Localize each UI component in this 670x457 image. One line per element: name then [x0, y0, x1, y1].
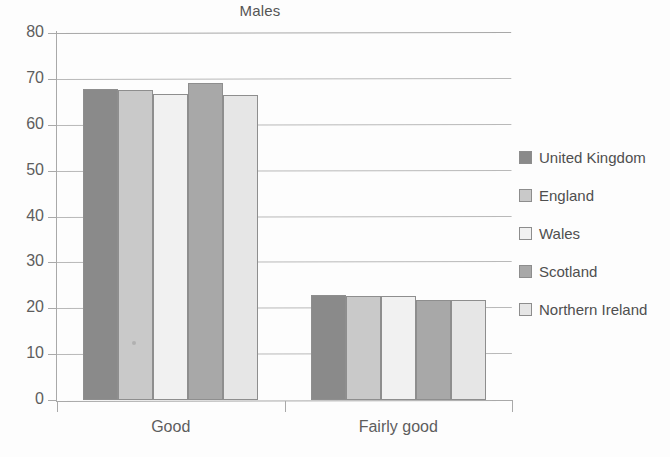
- legend-swatch-icon: [519, 189, 532, 202]
- x-tick-mark-0: [57, 401, 58, 412]
- x-tick-mark-1: [285, 401, 286, 412]
- legend-item-label: Northern Ireland: [539, 302, 647, 317]
- bar-england-fairly-good: [346, 296, 381, 400]
- legend-swatch-icon: [519, 151, 532, 164]
- bar-wales-fairly-good: [381, 296, 416, 400]
- bar-northern-ireland-good: [223, 95, 258, 400]
- legend-item-england[interactable]: England: [519, 176, 667, 214]
- bar-scotland-fairly-good: [416, 300, 451, 400]
- legend-item-united-kingdom[interactable]: United Kingdom: [519, 138, 667, 176]
- legend-item-label: England: [539, 188, 594, 203]
- legend-item-wales[interactable]: Wales: [519, 214, 667, 252]
- legend-item-label: Scotland: [539, 264, 597, 279]
- x-tick-mark-2: [512, 401, 513, 412]
- bar-united-kingdom-fairly-good: [311, 295, 346, 400]
- bar-united-kingdom-good: [83, 89, 118, 400]
- legend-item-northern-ireland[interactable]: Northern Ireland: [519, 290, 667, 328]
- bar-northern-ireland-fairly-good: [451, 300, 486, 400]
- legend-swatch-icon: [519, 227, 532, 240]
- bar-wales-good: [153, 94, 188, 400]
- bar-england-good: [118, 90, 153, 400]
- x-category-label-fairly-good: Fairly good: [318, 418, 478, 436]
- legend-item-scotland[interactable]: Scotland: [519, 252, 667, 290]
- legend-swatch-icon: [519, 265, 532, 278]
- bar-scotland-good: [188, 83, 223, 400]
- legend-swatch-icon: [519, 303, 532, 316]
- bar-chart: Males 80706050403020100 GoodFairly good …: [0, 0, 670, 457]
- legend-item-label: United Kingdom: [539, 150, 646, 165]
- x-category-label-good: Good: [91, 418, 251, 436]
- chart-legend: United KingdomEnglandWalesScotlandNorthe…: [519, 138, 667, 328]
- legend-item-label: Wales: [539, 226, 580, 241]
